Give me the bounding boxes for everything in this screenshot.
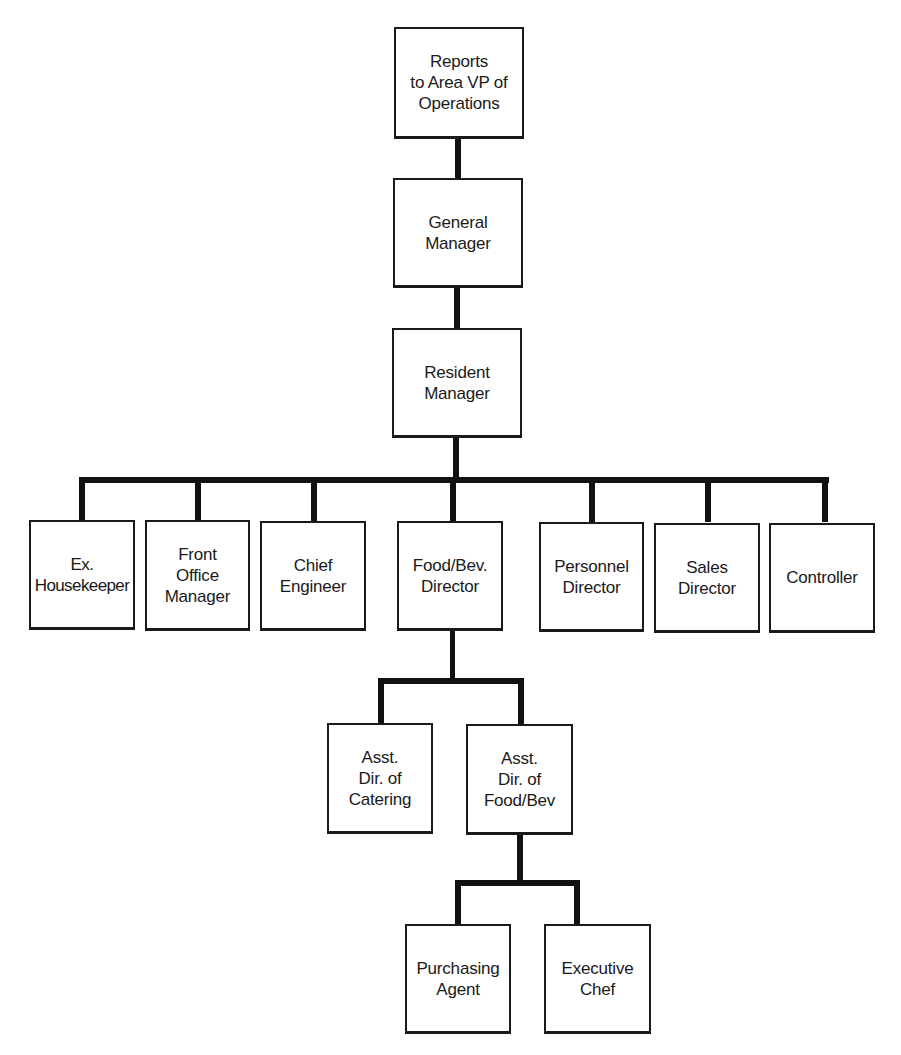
drop-chief-engineer [311, 477, 317, 521]
node-ex-housekeeper: Ex. Housekeeper [29, 520, 135, 630]
connector-vp-gm [455, 137, 461, 179]
node-resident-manager: Resident Manager [392, 328, 522, 438]
fb-sub-bar [378, 678, 524, 684]
node-asst-dir-food-bev: Asst. Dir. of Food/Bev [466, 724, 573, 835]
node-label: Ex. Housekeeper [35, 554, 130, 596]
node-label: Food/Bev. Director [413, 555, 487, 597]
node-controller: Controller [769, 523, 875, 633]
node-area-vp-operations: Reports to Area VP of Operations [394, 27, 524, 139]
connector-fb-bar [450, 629, 455, 682]
node-executive-chef: Executive Chef [544, 924, 651, 1034]
node-label: Reports to Area VP of Operations [410, 51, 507, 114]
drop-housekeeper [79, 477, 85, 521]
connector-rm-bar [453, 436, 459, 482]
node-label: Chief Engineer [280, 555, 346, 597]
drop-exec-chef [574, 880, 580, 925]
node-front-office-manager: Front Office Manager [145, 520, 250, 631]
connector-asstfb-bar [517, 833, 523, 885]
drop-asst-catering [378, 678, 384, 724]
node-chief-engineer: Chief Engineer [260, 521, 366, 631]
node-label: Front Office Manager [165, 544, 231, 607]
node-general-manager: General Manager [393, 178, 523, 288]
asstfb-sub-bar [455, 880, 580, 886]
drop-sales [705, 480, 711, 522]
node-label: Purchasing Agent [416, 958, 499, 1000]
drop-controller [822, 480, 828, 522]
node-label: Asst. Dir. of Food/Bev [484, 748, 555, 811]
node-sales-director: Sales Director [654, 523, 760, 633]
drop-front-office [195, 477, 201, 521]
node-label: Executive Chef [562, 958, 634, 1000]
connector-gm-rm [454, 286, 460, 329]
node-label: Controller [786, 567, 858, 588]
node-asst-dir-catering: Asst. Dir. of Catering [327, 723, 433, 834]
node-personnel-director: Personnel Director [539, 522, 644, 632]
node-label: Sales Director [678, 557, 736, 599]
drop-fb-director [450, 477, 456, 521]
node-label: Personnel Director [554, 556, 629, 598]
node-label: Resident Manager [424, 362, 490, 404]
node-label: General Manager [425, 212, 491, 254]
drop-personnel [589, 480, 595, 522]
drop-purchasing [455, 880, 461, 925]
node-label: Asst. Dir. of Catering [349, 747, 412, 810]
node-purchasing-agent: Purchasing Agent [405, 924, 511, 1034]
drop-asst-fb [518, 678, 524, 724]
node-food-bev-director: Food/Bev. Director [397, 521, 503, 631]
